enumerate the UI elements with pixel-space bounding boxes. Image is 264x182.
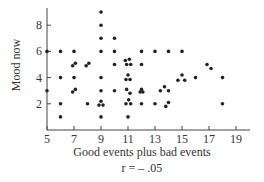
y-tick-label: 2 [36, 97, 42, 111]
data-point [140, 50, 144, 54]
data-point [71, 90, 75, 94]
data-point [124, 102, 128, 106]
data-point [99, 37, 103, 41]
y-ticks: 2468 [36, 18, 51, 111]
data-point [140, 63, 144, 67]
data-point [125, 63, 129, 67]
x-tick-label: 13 [149, 132, 161, 146]
correlation-annotation: r = – .05 [122, 161, 163, 175]
data-point [205, 63, 209, 67]
x-tick-label: 17 [203, 132, 215, 146]
data-point [209, 67, 213, 71]
y-tick-label: 8 [36, 18, 42, 32]
data-point [113, 50, 117, 54]
data-point [74, 61, 78, 65]
data-point [99, 99, 103, 103]
x-tick-label: 19 [230, 132, 242, 146]
data-point [99, 115, 103, 119]
data-point [99, 10, 103, 14]
data-point [129, 63, 133, 67]
data-point [127, 98, 131, 102]
data-point [126, 115, 130, 119]
data-point [164, 105, 168, 109]
y-axis-title: Mood now [9, 39, 23, 92]
data-point [59, 102, 63, 106]
data-point [87, 61, 91, 65]
data-point [125, 88, 129, 92]
data-point [86, 102, 90, 106]
data-point [113, 89, 117, 93]
y-tick-label: 6 [36, 44, 42, 58]
data-point [221, 76, 225, 80]
data-point [72, 50, 76, 54]
data-point [72, 76, 76, 80]
data-point [129, 102, 133, 106]
scatter-chart: 5791113151719 2468 Mood now Good events … [0, 0, 264, 182]
data-point [194, 76, 198, 80]
data-point [101, 103, 105, 107]
data-point [167, 50, 171, 54]
data-point [180, 73, 184, 77]
data-point [113, 63, 117, 67]
data-point [45, 50, 49, 54]
data-point [176, 78, 180, 82]
x-tick-label: 11 [122, 132, 134, 146]
data-point [99, 76, 103, 80]
data-point [128, 78, 132, 82]
data-point [59, 50, 63, 54]
data-point [221, 102, 225, 106]
data-point [153, 50, 157, 54]
data-point [99, 50, 103, 54]
data-point [167, 89, 171, 93]
data-point [163, 85, 167, 89]
data-point [124, 78, 128, 82]
data-point [180, 50, 184, 54]
data-point [84, 64, 88, 68]
data-point [59, 76, 63, 80]
data-point [140, 88, 144, 92]
data-point [113, 37, 117, 41]
data-point [126, 73, 130, 77]
x-tick-label: 5 [44, 132, 50, 146]
data-point [183, 78, 187, 82]
x-tick-label: 9 [98, 132, 104, 146]
data-point [128, 57, 132, 61]
data-point [159, 89, 163, 93]
x-axis-title: Good events plus bad events [73, 145, 211, 159]
axes [47, 8, 250, 130]
data-point [59, 115, 63, 119]
data-point [128, 92, 132, 96]
data-point [71, 64, 75, 68]
x-tick-label: 7 [71, 132, 77, 146]
data-point [99, 23, 103, 27]
data-point [140, 102, 144, 106]
x-tick-label: 15 [176, 132, 188, 146]
data-point [124, 59, 128, 63]
data-point [45, 89, 49, 93]
data-points [45, 10, 224, 118]
y-tick-label: 4 [36, 71, 42, 85]
data-point [167, 101, 171, 105]
x-ticks: 5791113151719 [44, 126, 242, 146]
data-point [99, 89, 103, 93]
data-point [97, 103, 101, 107]
data-point [153, 102, 157, 106]
data-point [74, 88, 78, 92]
